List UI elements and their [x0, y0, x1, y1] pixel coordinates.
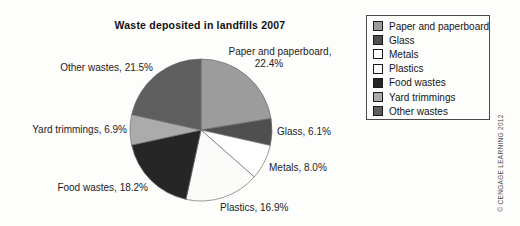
- slice-label-paper: Paper and paperboard, 22.4%: [210, 46, 350, 69]
- slice-label-food-wastes: Food wastes, 18.2%: [20, 182, 148, 194]
- pie-slice-paper-and-paperboard: [201, 59, 271, 130]
- slice-label-paper-name: Paper and paperboard,: [229, 46, 332, 57]
- legend-label-food-wastes: Food wastes: [389, 77, 446, 88]
- copyright-credit-text: © CENGAGE LEARNING 2012: [497, 111, 509, 215]
- legend-item-plastics: Plastics: [373, 62, 489, 76]
- legend-box: Paper and paperboard Glass Metals Plasti…: [366, 15, 490, 120]
- legend-label-yard-trimmings: Yard trimmings: [389, 92, 456, 103]
- pie-chart-figure: Waste deposited in landfills 2007 Paper …: [0, 0, 520, 226]
- slice-label-yard-trimmings: Yard trimmings, 6.9%: [0, 124, 127, 136]
- legend-item-other-wastes: Other wastes: [373, 104, 489, 118]
- legend-swatch-glass: [373, 35, 383, 45]
- legend-swatch-metals: [373, 49, 383, 59]
- legend-label-glass: Glass: [389, 35, 415, 46]
- slice-label-glass: Glass, 6.1%: [277, 126, 331, 138]
- legend-item-glass: Glass: [373, 33, 489, 47]
- slice-label-other-wastes: Other wastes, 21.5%: [20, 62, 153, 74]
- legend-swatch-yard-trimmings: [373, 92, 383, 102]
- legend-swatch-food-wastes: [373, 78, 383, 88]
- legend-label-plastics: Plastics: [389, 63, 423, 74]
- legend-item-yard-trimmings: Yard trimmings: [373, 90, 489, 104]
- slice-label-plastics: Plastics, 16.9%: [220, 202, 288, 214]
- legend-swatch-paper: [373, 21, 383, 31]
- legend-label-other-wastes: Other wastes: [389, 106, 448, 117]
- copyright-credit: © CENGAGE LEARNING 2012: [497, 111, 509, 215]
- legend-swatch-other-wastes: [373, 106, 383, 116]
- slice-label-paper-value: 22.4%: [210, 58, 350, 70]
- legend-item-food-wastes: Food wastes: [373, 76, 489, 90]
- legend-item-paper: Paper and paperboard: [373, 19, 489, 33]
- legend-label-metals: Metals: [389, 49, 418, 60]
- legend-swatch-plastics: [373, 64, 383, 74]
- slice-label-metals: Metals, 8.0%: [269, 162, 327, 174]
- legend-label-paper: Paper and paperboard: [389, 21, 489, 32]
- legend-item-metals: Metals: [373, 47, 489, 61]
